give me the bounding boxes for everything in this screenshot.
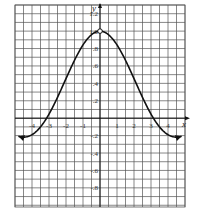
- open-point-marker: [98, 29, 103, 34]
- svg-text:3: 3: [149, 122, 153, 130]
- svg-text:-4: -4: [29, 122, 35, 130]
- svg-text:-.8: -.8: [90, 184, 98, 192]
- svg-text:.6: .6: [93, 62, 99, 70]
- svg-text:2: 2: [132, 122, 136, 130]
- x-axis-label: x: [181, 119, 186, 129]
- svg-text:1: 1: [115, 122, 119, 130]
- svg-text:.2: .2: [93, 97, 99, 105]
- svg-text:.8: .8: [93, 45, 99, 53]
- y-axis-label: y: [91, 3, 96, 13]
- svg-text:4: 4: [166, 122, 170, 130]
- svg-text:-.4: -.4: [90, 150, 98, 158]
- svg-text:-2: -2: [63, 122, 69, 130]
- axes: [15, 3, 190, 207]
- svg-text:-.6: -.6: [90, 167, 98, 175]
- svg-text:-3: -3: [46, 122, 52, 130]
- svg-text:.4: .4: [93, 80, 99, 88]
- svg-text:-1: -1: [80, 122, 86, 130]
- sinc-graph: -4-3-2-112341.21.0.8.6.4.2-.2-.4-.6-.8 x…: [0, 0, 197, 222]
- svg-text:-.2: -.2: [90, 132, 98, 140]
